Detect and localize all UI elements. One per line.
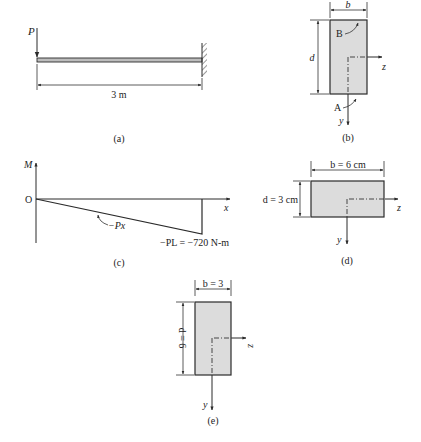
span-label: 3 m: [111, 89, 127, 100]
z-axis-label: z: [381, 61, 386, 72]
cross-section: [195, 302, 231, 375]
depth-label: d = 3 cm: [263, 194, 299, 205]
y-axis-label: y: [336, 234, 342, 245]
point-a-label: A: [334, 102, 342, 113]
m-axis-label: M: [23, 159, 33, 170]
x-axis-label: x: [223, 202, 229, 213]
caption-d: (d): [341, 255, 353, 267]
width-label: b = 3: [203, 278, 224, 289]
beam: [37, 58, 202, 62]
point-b-label: B: [336, 28, 343, 39]
load-label: P: [27, 25, 35, 37]
curve-leader: [98, 215, 108, 225]
panel-e-section: b = 3 d = 6 z y (e): [176, 278, 257, 427]
depth-label: d: [310, 52, 316, 63]
end-value-label: −PL = −720 N-m: [160, 237, 229, 248]
point-a-leader: [343, 99, 356, 108]
panel-c-moment-diagram: M O x −Px −PL = −720 N-m (c): [23, 159, 230, 269]
panel-a-cantilever: P 3 m (a): [27, 25, 207, 145]
caption-a: (a): [113, 133, 124, 145]
panel-b-section: b d z y B (a) A (b): [310, 0, 387, 144]
z-axis-label: z: [246, 343, 257, 348]
panel-d-section: b = 6 cm d = 3 cm z y (d): [263, 159, 401, 267]
caption-b: (b): [342, 132, 354, 144]
caption-e: (e): [207, 415, 218, 427]
y-axis-label: y: [338, 115, 344, 126]
beam-figure: P 3 m (a) b d z y B (a) A (b): [0, 0, 421, 442]
depth-label: d = 6: [177, 328, 188, 349]
caption-c: (c): [113, 257, 124, 269]
fixed-support-hatch: [202, 43, 207, 76]
origin-label: O: [25, 194, 32, 205]
curve-label: −Px: [108, 220, 126, 231]
z-axis-label: z: [396, 202, 401, 213]
y-axis-label: y: [202, 399, 208, 410]
width-label: b: [346, 0, 351, 10]
width-label: b = 6 cm: [330, 159, 366, 170]
